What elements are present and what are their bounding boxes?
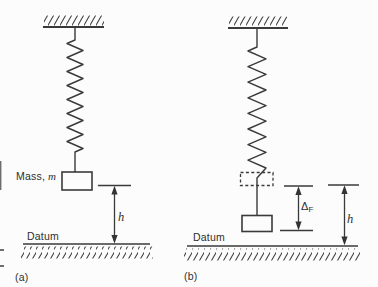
ground-hatch-b [184,249,360,261]
arrowhead-up-b [341,185,347,194]
mass-block-a [62,172,92,190]
mass-block-b [242,216,272,232]
ceiling-hatch-a [44,16,104,27]
arrowhead-down-b [341,237,347,246]
deflection-arrowhead-down [295,222,301,231]
spring-b [248,28,266,216]
height-label-a: h [118,210,124,224]
height-label-b: h [347,212,353,226]
diagram-a [21,16,153,259]
deflection-arrowhead-up [295,186,301,195]
ground-hatch-a [21,247,153,259]
arrowhead-up-a [111,186,117,195]
deflection-label: ΔF [301,200,314,214]
delta-subscript: F [309,205,314,214]
figure-canvas [0,0,378,287]
spring-a [67,27,83,172]
arrowhead-down-a [111,235,117,244]
scan-artifacts [0,161,4,266]
spring-mass-figure: Mass,m h Datum (a) ΔF h Datum (b) [0,0,378,287]
delta-symbol: Δ [301,200,309,212]
mass-label: Mass,m [16,170,56,183]
diagram-b [184,17,360,261]
datum-label-a: Datum [27,230,59,242]
datum-label-b: Datum [193,231,225,243]
caption-a: (a) [15,271,28,283]
ceiling-hatch-b [229,17,287,28]
caption-b: (b) [184,270,197,282]
mass-label-text: Mass, [16,170,45,182]
mass-symbol: m [48,170,56,182]
